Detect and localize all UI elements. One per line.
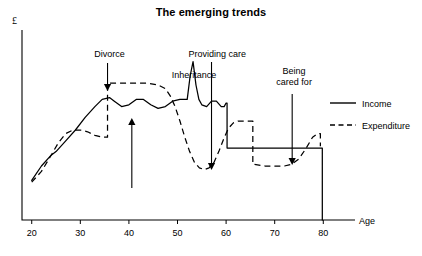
annotation-divorce: Divorce xyxy=(94,49,125,91)
x-tick-label: 80 xyxy=(318,228,328,238)
annotation-age-40-marker xyxy=(128,118,135,188)
annotation-label: Inheritance xyxy=(172,70,217,80)
chart-canvas: £Age20304050607080 DivorceInheritancePro… xyxy=(0,0,422,256)
x-tick-label: 70 xyxy=(270,228,280,238)
annotation-arrow-head xyxy=(208,163,215,170)
annotation-arrow-head xyxy=(104,84,111,91)
chart-figure: The emerging trends £Age20304050607080 D… xyxy=(0,0,422,256)
legend-layer: IncomeExpenditure xyxy=(330,99,410,131)
x-tick-label: 50 xyxy=(172,228,182,238)
annotation-label: Providing care xyxy=(189,49,247,59)
annotation-arrow-head xyxy=(128,118,135,125)
annotation-providing-care: Providing care xyxy=(189,49,247,170)
annotation-being-cared-for: Beingcared for xyxy=(276,66,312,165)
legend-label-expenditure: Expenditure xyxy=(362,121,410,131)
legend-label-income: Income xyxy=(362,99,392,109)
x-tick-label: 20 xyxy=(27,228,37,238)
series-expenditure xyxy=(32,83,321,182)
annotation-label: Divorce xyxy=(94,49,125,59)
annotation-label: cared for xyxy=(276,77,312,87)
annotation-inheritance: Inheritance xyxy=(172,70,217,80)
annotation-label: Being xyxy=(283,66,306,76)
x-axis-label: Age xyxy=(359,216,375,226)
x-tick-label: 40 xyxy=(124,228,134,238)
y-axis-label: £ xyxy=(12,15,17,26)
x-tick-label: 60 xyxy=(221,228,231,238)
annotations-layer: DivorceInheritanceProviding careBeingcar… xyxy=(94,49,312,188)
x-tick-label: 30 xyxy=(75,228,85,238)
